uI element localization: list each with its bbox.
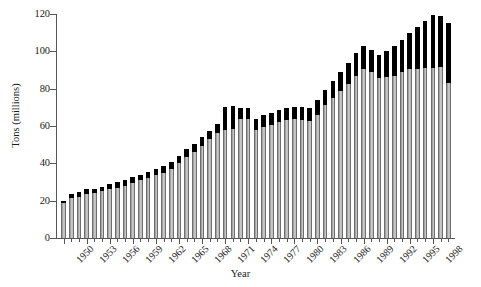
x-tick-mark-major xyxy=(133,239,134,244)
bar-segment-upper xyxy=(307,108,312,121)
x-tick-label: 1998 xyxy=(443,243,465,265)
bar-segment-upper xyxy=(277,110,282,122)
bar-segment-upper xyxy=(261,115,266,127)
bar-segment-lower xyxy=(284,120,289,238)
bar-segment-lower xyxy=(138,180,143,238)
bar-segment-lower xyxy=(392,76,397,238)
bar-segment-lower xyxy=(61,203,66,238)
x-tick-mark-minor xyxy=(348,239,349,242)
bar-segment-lower xyxy=(215,133,220,238)
bar-segment-lower xyxy=(177,163,182,238)
bar-segment-lower xyxy=(369,72,374,238)
y-tick-mark xyxy=(50,89,57,90)
x-tick-mark-minor xyxy=(371,239,372,242)
bar-segment-lower xyxy=(207,139,212,238)
x-tick-mark-minor xyxy=(425,239,426,242)
bar-segment-lower xyxy=(431,68,436,238)
bar-segment-upper xyxy=(415,27,420,69)
bar-segment-upper xyxy=(377,55,382,78)
x-tick-mark-minor xyxy=(402,239,403,242)
x-tick-mark-minor xyxy=(325,239,326,242)
bar-segment-upper xyxy=(231,106,236,128)
x-tick-mark-major xyxy=(202,239,203,244)
bar-segment-lower xyxy=(323,105,328,238)
x-axis-title: Year xyxy=(0,268,481,279)
x-tick-mark-minor xyxy=(187,239,188,242)
bar-segment-lower xyxy=(77,197,82,238)
x-tick-label: 1992 xyxy=(397,243,419,265)
x-tick-mark-minor xyxy=(287,239,288,242)
bar-segment-upper xyxy=(423,21,428,69)
x-tick-mark-minor xyxy=(441,239,442,242)
x-tick-label: 1986 xyxy=(350,243,372,265)
x-tick-mark-minor xyxy=(394,239,395,242)
bar-segment-lower xyxy=(169,169,174,238)
bar-segment-lower xyxy=(84,194,89,238)
bar-segment-lower xyxy=(69,198,74,238)
bar-segment-lower xyxy=(377,78,382,238)
y-tick-mark xyxy=(50,126,57,127)
bar-segment-upper xyxy=(130,177,135,183)
bar-segment-lower xyxy=(100,191,105,238)
bar-segment-upper xyxy=(223,107,228,129)
bar-segment-upper xyxy=(438,16,443,67)
y-tick-label: 80 xyxy=(6,84,50,94)
x-tick-mark-major xyxy=(341,239,342,244)
bar-segment-lower xyxy=(261,127,266,238)
bar-segment-upper xyxy=(154,169,159,176)
bar-segment-upper xyxy=(238,108,243,119)
bar-segment-upper xyxy=(192,144,197,152)
x-tick-label: 1995 xyxy=(420,243,442,265)
x-tick-mark-major xyxy=(410,239,411,244)
bar-segment-upper xyxy=(361,46,366,69)
x-tick-mark-major xyxy=(87,239,88,244)
x-tick-label: 1956 xyxy=(120,243,142,265)
x-tick-label: 1974 xyxy=(258,243,280,265)
bar-segment-lower xyxy=(338,91,343,238)
bar-segment-lower xyxy=(184,157,189,238)
bar-segment-upper xyxy=(84,189,89,194)
bar-segment-lower xyxy=(307,121,312,238)
x-tick-mark-minor xyxy=(79,239,80,242)
x-tick-mark-minor xyxy=(194,239,195,242)
bar-segment-upper xyxy=(284,108,289,120)
bar-segment-upper xyxy=(407,33,412,69)
bar-segment-upper xyxy=(331,81,336,98)
y-tick-label: 120 xyxy=(6,9,50,19)
x-tick-mark-minor xyxy=(171,239,172,242)
bar-segment-lower xyxy=(269,125,274,238)
plot-area xyxy=(57,14,454,238)
x-tick-mark-minor xyxy=(148,239,149,242)
bar-segment-upper xyxy=(384,51,389,77)
x-tick-mark-minor xyxy=(417,239,418,242)
x-tick-mark-major xyxy=(317,239,318,244)
bar-segment-upper xyxy=(61,201,66,204)
bar-segment-upper xyxy=(369,50,374,71)
y-tick-label: 60 xyxy=(6,121,50,131)
y-tick-mark xyxy=(50,201,57,202)
bar-segment-upper xyxy=(184,149,189,156)
bar-segment-upper xyxy=(100,187,105,192)
bar-segment-lower xyxy=(361,69,366,238)
bar-segment-upper xyxy=(69,194,74,198)
bar-segment-upper xyxy=(246,108,251,119)
bar-segment-upper xyxy=(323,90,328,106)
bar-segment-upper xyxy=(315,100,320,115)
bar-segment-lower xyxy=(407,69,412,238)
bar-segment-upper xyxy=(115,182,120,188)
bar-segment-lower xyxy=(115,188,120,238)
bar-segment-lower xyxy=(292,119,297,238)
bar-segment-lower xyxy=(92,193,97,238)
bar-segment-upper xyxy=(92,189,97,194)
x-tick-mark-major xyxy=(179,239,180,244)
bar-segment-lower xyxy=(331,98,336,238)
y-tick-label: 100 xyxy=(6,46,50,56)
x-tick-mark-minor xyxy=(102,239,103,242)
x-tick-mark-minor xyxy=(233,239,234,242)
bar-segment-upper xyxy=(300,107,305,120)
bar-segment-lower xyxy=(300,120,305,238)
bar-segment-upper xyxy=(269,113,274,125)
bar-segment-upper xyxy=(292,107,297,119)
x-tick-mark-minor xyxy=(117,239,118,242)
bar-segment-upper xyxy=(346,63,351,84)
